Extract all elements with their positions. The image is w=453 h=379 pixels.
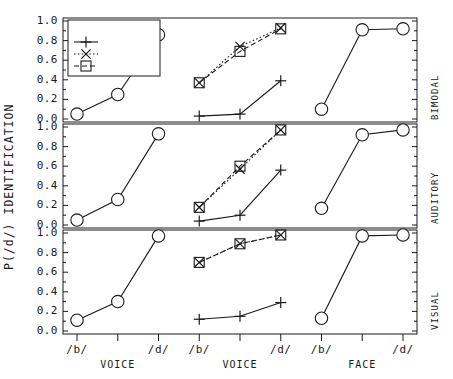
- x-tick-label: /b/: [57, 343, 97, 356]
- y-tick-label: 0.4: [24, 73, 58, 86]
- series-face-continuum: [315, 229, 409, 325]
- y-tick-label: 1.0: [24, 226, 58, 239]
- series-voice-continuum: [71, 230, 165, 327]
- y-tick-label: 0.6: [24, 159, 58, 172]
- series--b-: [194, 75, 287, 121]
- y-tick-label: 0.8: [24, 34, 58, 47]
- x-tick-label: /b/: [302, 343, 342, 356]
- y-tick-label: 1.0: [24, 120, 58, 133]
- series-face-continuum: [315, 23, 409, 116]
- y-tick-label: 0.4: [24, 285, 58, 298]
- y-tick-label: 0.2: [24, 92, 58, 105]
- y-tick-label: 0.6: [24, 265, 58, 278]
- y-tick-label: 0.8: [24, 140, 58, 153]
- x-tick-label: /d/: [261, 343, 301, 356]
- x-tick-label: /d/: [383, 343, 423, 356]
- series-voice-continuum: [71, 128, 165, 227]
- x-group-label: VOICE: [73, 359, 163, 370]
- series--b-: [194, 297, 287, 325]
- y-tick-label: 0.4: [24, 179, 58, 192]
- plot-canvas: [0, 0, 453, 379]
- series--b-: [194, 165, 287, 227]
- y-tick-label: 0.2: [24, 198, 58, 211]
- series--d-: [194, 125, 286, 212]
- y-tick-label: 1.0: [24, 14, 58, 27]
- x-group-label: VOICE: [195, 359, 285, 370]
- series--d-: [194, 230, 286, 267]
- x-tick-label: /b/: [179, 343, 219, 356]
- figure: P(/d/) IDENTIFICATION BIMODAL AUDITORY V…: [0, 0, 453, 379]
- y-tick-label: 0.0: [24, 324, 58, 337]
- y-tick-label: 0.2: [24, 304, 58, 317]
- series--d-: [194, 24, 286, 88]
- y-tick-label: 0.8: [24, 246, 58, 259]
- y-tick-label: 0.6: [24, 53, 58, 66]
- series-face-continuum: [315, 124, 409, 215]
- x-tick-label: /d/: [139, 343, 179, 356]
- x-group-label: FACE: [317, 359, 407, 370]
